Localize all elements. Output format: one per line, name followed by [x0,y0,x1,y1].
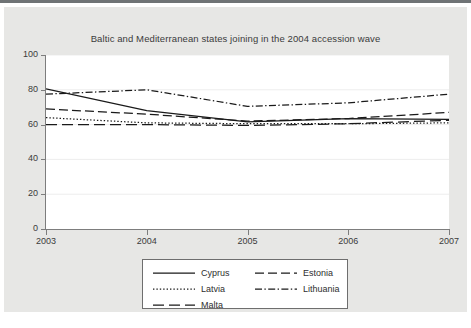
top-rule-divider [0,0,471,3]
x-axis-tick-label: 2005 [228,236,268,246]
y-axis-tick-mark [41,125,46,126]
y-axis-line [45,55,46,230]
legend-line-sample-longdash [153,300,195,310]
legend-line-sample-solid [153,268,195,278]
y-axis-tick-label: 40 [8,153,38,163]
y-axis-tick-mark [41,90,46,91]
x-axis-tick-mark [248,230,249,235]
x-axis-tick-mark [147,230,148,235]
legend-line-sample-dashed [255,268,297,278]
y-axis-tick-mark [41,194,46,195]
plot-lines-svg [46,55,449,229]
legend-label: Latvia [201,284,225,294]
legend-line-sample-dotted [153,284,195,294]
y-axis-tick-label: 0 [8,223,38,233]
legend-item-estonia[interactable]: Estonia [255,266,333,280]
legend-label: Cyprus [201,268,230,278]
legend-item-latvia[interactable]: Latvia [153,282,225,296]
y-axis-tick-mark [41,159,46,160]
x-axis-tick-mark [46,230,47,235]
x-axis-tick-label: 2006 [328,236,368,246]
legend-label: Estonia [303,268,333,278]
x-axis-tick-label: 2003 [26,236,66,246]
y-axis-tick-label: 60 [8,119,38,129]
plot-area [46,55,449,229]
chart-legend: CyprusEstoniaLatviaLithuaniaMalta [142,259,348,309]
legend-line-sample-dashdot [255,284,297,294]
y-axis-tick-label: 20 [8,188,38,198]
x-axis-tick-label: 2004 [127,236,167,246]
chart-title: Baltic and Mediterranean states joining … [4,33,467,44]
legend-item-cyprus[interactable]: Cyprus [153,266,230,280]
legend-item-malta[interactable]: Malta [153,298,223,312]
x-axis-tick-mark [449,230,450,235]
legend-item-lithuania[interactable]: Lithuania [255,282,340,296]
x-axis-tick-label: 2007 [429,236,469,246]
series-line-lithuania [46,90,449,107]
y-axis-tick-label: 100 [8,49,38,59]
legend-label: Malta [201,300,223,310]
legend-entries: CyprusEstoniaLatviaLithuaniaMalta [143,260,347,308]
y-axis-tick-mark [41,55,46,56]
chart-page: Baltic and Mediterranean states joining … [0,0,471,328]
x-axis-tick-mark [348,230,349,235]
legend-label: Lithuania [303,284,340,294]
y-axis-tick-label: 80 [8,84,38,94]
series-line-cyprus [46,89,449,122]
figure-panel: Baltic and Mediterranean states joining … [4,7,467,312]
